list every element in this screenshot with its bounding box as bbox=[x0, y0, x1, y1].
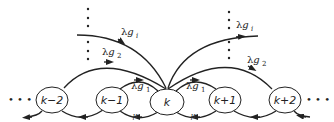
svg-text:λg: λg bbox=[236, 19, 249, 30]
svg-text:k+2: k+2 bbox=[274, 94, 297, 107]
svg-text:k−2: k−2 bbox=[41, 94, 64, 107]
left-dotted-column bbox=[87, 8, 89, 60]
state-node-k-minus-2: k−2 bbox=[36, 87, 68, 113]
label-lambda-g1-left: λg 1 bbox=[131, 80, 150, 94]
state-node-k-plus-1: k+1 bbox=[209, 87, 241, 113]
svg-text:1: 1 bbox=[201, 86, 205, 94]
state-node-k-plus-2: k+2 bbox=[269, 87, 301, 113]
label-lambda-g2-right: λg 2 bbox=[247, 54, 266, 68]
svg-text:λg: λg bbox=[121, 26, 134, 37]
label-lambda-g2-left: λg 2 bbox=[102, 46, 121, 60]
state-node-k-minus-1: k−1 bbox=[96, 87, 128, 113]
svg-text:λg: λg bbox=[102, 46, 115, 57]
left-ellipsis: • • • bbox=[8, 94, 32, 105]
svg-text:1: 1 bbox=[146, 86, 150, 94]
state-node-k: k bbox=[150, 89, 184, 115]
svg-text:λg: λg bbox=[131, 80, 144, 91]
svg-text:i: i bbox=[251, 25, 253, 33]
svg-text:λg: λg bbox=[247, 54, 260, 65]
right-dotted-column bbox=[228, 11, 230, 59]
label-mu-left: μ bbox=[132, 111, 137, 120]
svg-text:k+1: k+1 bbox=[214, 94, 237, 107]
svg-text:λg: λg bbox=[186, 80, 199, 91]
label-mu-right: μ bbox=[190, 111, 195, 120]
svg-text:k−1: k−1 bbox=[101, 94, 124, 107]
svg-text:i: i bbox=[136, 32, 138, 40]
right-ellipsis: • • • bbox=[306, 94, 330, 105]
markov-chain-diagram: k−2 k−1 k k+1 k+2 • • • • • • λg i λg 2 … bbox=[0, 0, 334, 122]
svg-text:k: k bbox=[164, 96, 171, 109]
label-lambda-gi-left: λg i bbox=[121, 26, 138, 40]
svg-text:2: 2 bbox=[262, 60, 266, 68]
label-lambda-gi-right: λg i bbox=[236, 19, 253, 33]
svg-text:2: 2 bbox=[117, 52, 121, 60]
edge-lambda-gi-in bbox=[77, 35, 166, 88]
